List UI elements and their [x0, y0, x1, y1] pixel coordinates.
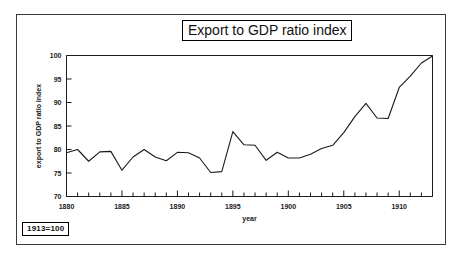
- y-tick-label: 85: [54, 123, 62, 130]
- x-tick-label: 1900: [281, 203, 297, 210]
- page-title: Export to GDP ratio index: [188, 22, 346, 38]
- y-tick-label: 95: [54, 76, 62, 83]
- y-tick-labels: 707580859095100: [50, 52, 62, 200]
- axis-frame: [67, 56, 433, 197]
- x-tick-label: 1895: [225, 203, 241, 210]
- y-axis-title: export to GDP ratio index: [35, 84, 43, 168]
- x-tick-label: 1890: [170, 203, 186, 210]
- x-tick-label: 1910: [391, 203, 407, 210]
- figure-root: Export to GDP ratio index 1913=100 70758…: [0, 0, 462, 263]
- y-tick-label: 100: [50, 52, 62, 59]
- y-tick-label: 90: [54, 99, 62, 106]
- data-series-line: [67, 56, 433, 173]
- x-tick-label: 1885: [114, 203, 130, 210]
- x-tick-label: 1905: [336, 203, 352, 210]
- y-tick-label: 70: [54, 193, 62, 200]
- axes-group: 707580859095100 188018851890189519001905…: [35, 52, 433, 223]
- x-tick-label: 1880: [59, 203, 75, 210]
- y-tick-label: 80: [54, 146, 62, 153]
- y-tick-marks: [67, 56, 72, 197]
- chart-title-box: Export to GDP ratio index: [182, 20, 352, 41]
- x-axis-title: year: [242, 215, 257, 223]
- y-tick-label: 75: [54, 170, 62, 177]
- index-base-note: 1913=100: [27, 224, 64, 234]
- index-base-note-box: 1913=100: [22, 222, 69, 236]
- x-tick-labels: 1880188518901895190019051910: [59, 203, 407, 210]
- series-group: [67, 56, 433, 173]
- x-tick-marks: [67, 191, 433, 197]
